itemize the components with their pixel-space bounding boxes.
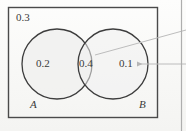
a-only-probability-label: 0.2 bbox=[36, 58, 50, 69]
b-only-probability-label: 0.1 bbox=[119, 58, 133, 69]
set-b-label: B bbox=[139, 99, 146, 110]
venn-diagram-figure: 0.3 0.2 0.4 0.1 A B bbox=[0, 0, 186, 131]
intersection-probability-label: 0.4 bbox=[79, 58, 93, 69]
set-a-label: A bbox=[30, 99, 37, 110]
outside-probability-label: 0.3 bbox=[16, 12, 30, 23]
